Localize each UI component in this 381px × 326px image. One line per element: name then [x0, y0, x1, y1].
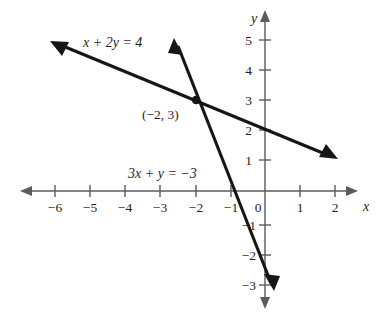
line2-bottom-arrow-icon — [264, 274, 280, 291]
y-axis-label: y — [249, 11, 258, 26]
x-tick-label: −3 — [153, 200, 168, 215]
y-axis-tick-labels: 5 4 3 2 1 −1 −2 −3 — [242, 33, 257, 293]
line2-top-arrow-icon — [168, 38, 183, 55]
y-axis-up-arrow-icon — [260, 10, 270, 22]
line2-equation-label: 3x + y = −3 — [127, 166, 197, 181]
intersection-point-marker — [192, 96, 200, 104]
coordinate-plane: −6 −5 −4 −3 −2 −1 1 2 5 4 3 2 1 −1 −2 −3… — [0, 0, 381, 326]
y-tick-label: 2 — [245, 123, 252, 138]
x-tick-label: −1 — [224, 200, 238, 215]
y-tick-label: 4 — [245, 63, 252, 78]
y-tick-label: 3 — [245, 93, 252, 108]
y-tick-label: −2 — [242, 248, 256, 263]
origin-label: 0 — [255, 200, 262, 215]
x-tick-label: −4 — [118, 200, 133, 215]
x-tick-label: −6 — [48, 200, 63, 215]
x-tick-label: 1 — [297, 200, 304, 215]
x-axis-label: x — [362, 199, 370, 214]
x-axis-left-arrow-icon — [20, 186, 32, 196]
graph-figure: −6 −5 −4 −3 −2 −1 1 2 5 4 3 2 1 −1 −2 −3… — [0, 0, 381, 326]
x-tick-label: −5 — [83, 200, 98, 215]
line1-equation-label: x + 2y = 4 — [82, 35, 142, 50]
x-axis — [20, 186, 358, 196]
y-tick-label: 1 — [245, 153, 252, 168]
x-tick-label: 2 — [332, 200, 339, 215]
line-3x-plus-y-equals-minus-3 — [168, 38, 280, 291]
y-tick-label: 5 — [245, 33, 252, 48]
intersection-point-label: (−2, 3) — [142, 107, 179, 122]
x-tick-label: −2 — [189, 200, 203, 215]
x-axis-right-arrow-icon — [346, 186, 358, 196]
y-tick-label: −3 — [242, 278, 257, 293]
x-axis-tick-labels: −6 −5 −4 −3 −2 −1 1 2 — [48, 200, 339, 215]
y-axis-down-arrow-icon — [260, 297, 270, 309]
